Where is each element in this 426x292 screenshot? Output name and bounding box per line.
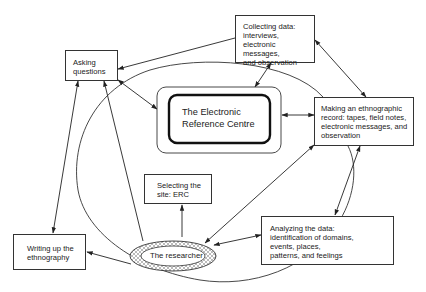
edge-collecting-record <box>315 40 366 97</box>
edge-researcher-asking <box>104 81 143 241</box>
node-asking-questions: Asking questions <box>65 50 118 81</box>
node-selecting-site: Selecting the site: ERC <box>144 174 212 204</box>
node-erc-label: The Electronic Reference Centre <box>182 107 255 130</box>
node-writing-up: Writing up the ethnography <box>13 234 86 270</box>
node-collecting-label: Collecting data: interviews, electronic … <box>243 22 314 67</box>
node-collecting-data: Collecting data: interviews, electronic … <box>235 15 315 63</box>
edge-writing-asking <box>53 81 78 233</box>
node-record-label: Making an ethnographic record: tapes, fi… <box>321 104 407 140</box>
node-writing-label: Writing up the ethnography <box>27 244 74 262</box>
node-ethnographic-record: Making an ethnographic record: tapes, fi… <box>314 97 414 146</box>
node-selecting-label: Selecting the site: ERC <box>157 181 201 199</box>
node-asking-label: Asking questions <box>73 58 106 76</box>
edge-asking-erc <box>118 80 157 109</box>
edge-analyzing-researcher <box>214 235 261 245</box>
node-analyzing-data: Analyzing the data: identification of do… <box>261 216 394 265</box>
node-analyzing-label: Analyzing the data: identification of do… <box>270 224 354 260</box>
edge-researcher-writing <box>87 252 131 264</box>
node-researcher-label: The researcher <box>150 251 203 260</box>
